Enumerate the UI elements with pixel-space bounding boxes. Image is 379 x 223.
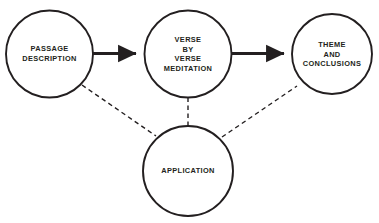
node-application[interactable] xyxy=(143,126,233,216)
connector-passage-to-application xyxy=(82,85,156,136)
node-group xyxy=(6,11,372,217)
node-verse-by-verse-meditation[interactable] xyxy=(145,11,232,98)
connector-theme-to-application xyxy=(222,86,297,137)
flow-diagram: PASSAGE DESCRIPTION VERSE BY VERSE MEDIT… xyxy=(0,0,379,223)
node-passage-description[interactable] xyxy=(6,11,93,98)
node-theme-and-conclusions[interactable] xyxy=(292,14,372,94)
diagram-canvas xyxy=(0,0,379,223)
